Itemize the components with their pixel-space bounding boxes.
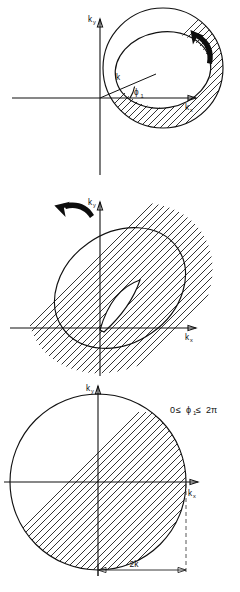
- y-axis-label-sub: y: [91, 388, 94, 394]
- panel-full-angle: k y k x 0 ≤ ϕ 1 ≤ 2π 2k: [0, 380, 240, 592]
- dimension-measure: 2k: [98, 559, 186, 576]
- x-axis-label-sub: x: [190, 107, 193, 113]
- panel-narrow-angle: k ϕ 1 k y k x: [0, 0, 240, 180]
- hatched-region: [38, 0, 240, 180]
- annotation-zero: 0: [170, 405, 175, 415]
- hatched-region: [0, 200, 240, 380]
- dimension-label: 2k: [130, 559, 140, 569]
- panel-quarter-angle: k y k x 0 ≤ ϕ 1 ≤ π 2: [0, 180, 240, 380]
- angle-label: ϕ: [134, 88, 139, 97]
- y-axis-label-sub: y: [93, 19, 96, 25]
- x-axis-label-sub: x: [193, 493, 196, 499]
- angle-range-annotation: 0 ≤ ϕ 1 ≤ 2π: [170, 405, 217, 416]
- radius-vector: [100, 74, 156, 98]
- rotation-arrow-icon: [185, 26, 213, 64]
- annotation-upper-bound: 2π: [206, 405, 217, 415]
- annotation-rel-2: ≤: [196, 405, 201, 415]
- figure-root: k ϕ 1 k y k x: [0, 0, 240, 592]
- radius-label: k: [116, 73, 121, 82]
- panel-2-canvas: k y k x 0 ≤ ϕ 1 ≤ π 2: [0, 180, 240, 380]
- y-axis-label-sub: y: [93, 202, 96, 208]
- panel-1-canvas: k ϕ 1 k y k x: [0, 0, 240, 180]
- angle-label-sub: 1: [141, 93, 144, 99]
- hatched-region: [0, 412, 240, 592]
- annotation-rel-1: ≤: [176, 405, 181, 415]
- outer-circle: [103, 8, 223, 128]
- annotation-variable: ϕ: [186, 405, 191, 415]
- panel-3-canvas: k y k x 0 ≤ ϕ 1 ≤ 2π 2k: [0, 380, 240, 592]
- x-axis-label-sub: x: [190, 337, 193, 343]
